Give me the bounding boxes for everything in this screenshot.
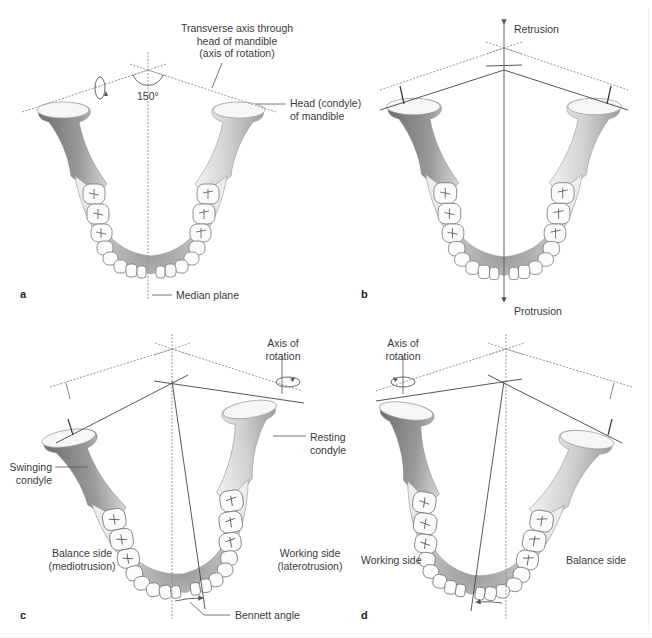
transverse-axis-label: Transverse axis through head of mandible… bbox=[172, 22, 302, 60]
panel-divider bbox=[648, 8, 649, 630]
retrusion-label: Retrusion bbox=[514, 23, 559, 36]
panel-a: Transverse axis through head of mandible… bbox=[0, 0, 326, 319]
axis-of-rotation-label-d: Axis of rotation bbox=[382, 337, 424, 362]
bennett-angle-label: Bennett angle bbox=[235, 609, 300, 622]
balance-side-label-d: Balance side bbox=[566, 554, 626, 567]
mandible-diagram-d bbox=[326, 319, 652, 638]
mandible-diagram-b bbox=[326, 0, 652, 319]
swinging-condyle-label: Swinging condyle bbox=[6, 461, 52, 486]
panel-label-a: a bbox=[20, 288, 26, 300]
panel-label-c: c bbox=[20, 609, 26, 621]
panel-label-d: d bbox=[361, 609, 368, 621]
panel-b: Retrusion Protrusion b bbox=[326, 0, 652, 319]
protrusion-label: Protrusion bbox=[514, 305, 562, 318]
balance-side-label: Balance side (mediotrusion) bbox=[44, 547, 120, 572]
working-side-label-d: Working side bbox=[361, 554, 422, 567]
axis-of-rotation-label: Axis of rotation bbox=[262, 337, 304, 362]
panel-d: Axis of rotation Working side Balance si… bbox=[326, 319, 652, 638]
panel-label-b: b bbox=[361, 288, 368, 300]
bottom-divider bbox=[0, 633, 652, 634]
median-plane-label: Median plane bbox=[176, 289, 239, 302]
angle-label: 150° bbox=[137, 90, 159, 103]
panel-c: Axis of rotation Resting condyle Swingin… bbox=[0, 319, 326, 638]
